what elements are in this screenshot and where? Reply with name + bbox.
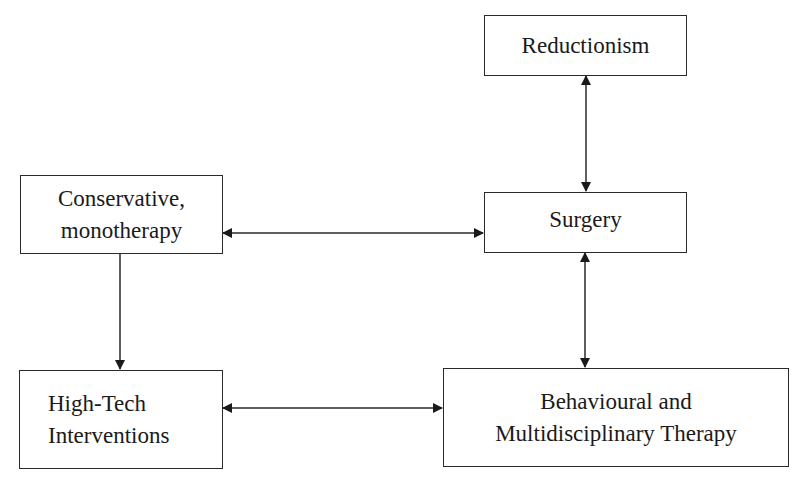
node-surgery-label: Surgery bbox=[549, 204, 621, 236]
node-behavioural-label-line1: Behavioural and bbox=[540, 386, 691, 418]
node-reductionism-label: Reductionism bbox=[522, 30, 650, 62]
node-conservative-label-line1: Conservative, bbox=[58, 183, 185, 215]
node-conservative-monotherapy: Conservative, monotherapy bbox=[20, 175, 223, 254]
node-behavioural-label-line2: Multidisciplinary Therapy bbox=[495, 418, 737, 450]
node-hightech-label-line2: Interventions bbox=[48, 420, 169, 452]
node-behavioural-multidisciplinary-therapy: Behavioural and Multidisciplinary Therap… bbox=[443, 368, 789, 467]
node-reductionism: Reductionism bbox=[484, 15, 687, 76]
node-surgery: Surgery bbox=[484, 192, 687, 253]
node-high-tech-interventions: High-Tech Interventions bbox=[19, 370, 223, 469]
node-conservative-label-line2: monotherapy bbox=[61, 215, 182, 247]
node-hightech-label-line1: High-Tech bbox=[48, 388, 146, 420]
